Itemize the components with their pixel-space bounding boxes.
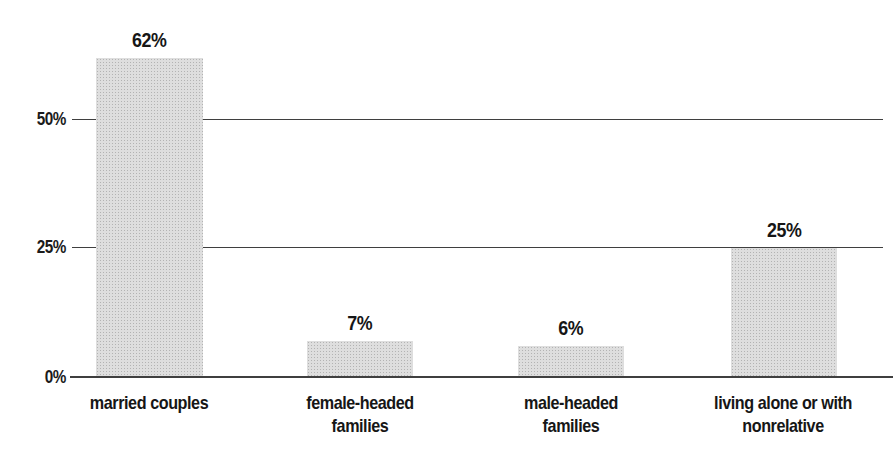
bar-chart: 50% 25% 0% 62% 7% 6% 25% married couples…	[0, 0, 893, 467]
bar-group-female-headed-families: 7%	[307, 311, 413, 377]
bar-married-couples	[96, 58, 203, 377]
bar-living-alone	[731, 248, 837, 377]
bar-female-headed-families	[307, 341, 413, 377]
x-category-male-headed-families: male-headed families	[478, 391, 665, 437]
bar-group-living-alone: 25%	[731, 218, 837, 377]
bar-group-married-couples: 62%	[96, 28, 203, 377]
y-tick-25: 25%	[10, 236, 66, 258]
bar-value-label: 7%	[348, 311, 373, 335]
bar-group-male-headed-families: 6%	[518, 316, 624, 377]
y-tick-0: 0%	[10, 366, 66, 388]
x-category-married-couples: married couples	[56, 391, 243, 414]
bar-value-label: 25%	[767, 218, 801, 242]
bar-value-label: 6%	[559, 316, 584, 340]
x-category-female-headed-families: female-headed families	[267, 391, 454, 437]
x-axis-line	[70, 376, 893, 378]
bar-value-label: 62%	[132, 28, 166, 52]
x-category-living-alone: living alone or with nonrelative	[690, 391, 877, 437]
y-tick-50: 50%	[10, 108, 66, 130]
bar-male-headed-families	[518, 346, 624, 377]
